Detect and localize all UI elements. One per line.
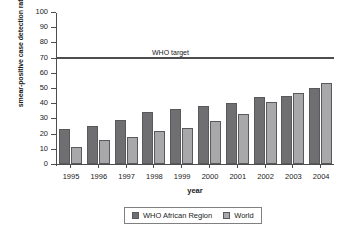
bar-1997-world — [127, 137, 138, 164]
bar-2002-world — [266, 102, 277, 164]
y-tick-50: 50 — [51, 88, 56, 89]
bar-group-2004: 2004 — [309, 12, 337, 164]
bar-group-1998: 1998 — [142, 12, 170, 164]
bar-2004-who-african-region — [309, 88, 320, 164]
legend-item-world: World — [223, 211, 253, 220]
y-tick-mark — [51, 27, 56, 28]
bar-group-1995: 1995 — [59, 12, 87, 164]
x-tick-mark — [70, 164, 71, 168]
bar-1996-world — [99, 140, 110, 164]
y-tick-mark — [51, 88, 56, 89]
y-tick-10: 10 — [51, 149, 56, 150]
chart-figure: smear-positive case detection rate 01020… — [0, 0, 342, 236]
y-tick-label: 20 — [40, 129, 48, 138]
bar-1996-who-african-region — [87, 126, 98, 164]
x-tick-mark — [292, 164, 293, 168]
y-tick-100: 100 — [51, 12, 56, 13]
y-tick-label: 60 — [40, 68, 48, 77]
x-tick-mark — [265, 164, 266, 168]
y-tick-label: 100 — [35, 7, 48, 16]
y-tick-label: 10 — [40, 144, 48, 153]
bar-1998-world — [154, 131, 165, 164]
x-tick-mark — [98, 164, 99, 168]
y-tick-label: 80 — [40, 37, 48, 46]
y-tick-mark — [51, 118, 56, 119]
bar-group-1999: 1999 — [170, 12, 198, 164]
bar-group-1996: 1996 — [87, 12, 115, 164]
x-tick-mark — [320, 164, 321, 168]
y-tick-mark — [51, 12, 56, 13]
bar-2001-world — [238, 114, 249, 164]
y-tick-mark — [51, 164, 56, 165]
y-tick-mark — [51, 134, 56, 135]
y-tick-60: 60 — [51, 73, 56, 74]
bar-2004-world — [321, 83, 332, 164]
y-tick-label: 70 — [40, 53, 48, 62]
y-tick-mark — [51, 42, 56, 43]
y-tick-0: 0 — [51, 164, 56, 165]
x-tick-mark — [126, 164, 127, 168]
bar-1997-who-african-region — [115, 120, 126, 164]
bar-1995-world — [71, 147, 82, 164]
bar-1998-who-african-region — [142, 112, 153, 164]
bar-group-2003: 2003 — [281, 12, 309, 164]
bar-2000-who-african-region — [198, 106, 209, 164]
y-tick-label: 30 — [40, 113, 48, 122]
x-tick-mark — [209, 164, 210, 168]
legend-label-world: World — [234, 211, 253, 220]
x-axis-label: year — [56, 186, 334, 195]
y-tick-mark — [51, 103, 56, 104]
bar-2002-who-african-region — [254, 97, 265, 164]
bar-group-2001: 2001 — [226, 12, 254, 164]
y-tick-label: 90 — [40, 22, 48, 31]
y-tick-20: 20 — [51, 134, 56, 135]
x-tick-mark — [237, 164, 238, 168]
legend-swatch-icon-who-african-region — [132, 212, 139, 219]
y-tick-label: 40 — [40, 98, 48, 107]
y-tick-30: 30 — [51, 118, 56, 119]
x-tick-mark — [181, 164, 182, 168]
bar-group-1997: 1997 — [115, 12, 143, 164]
x-tick-mark — [153, 164, 154, 168]
bar-1999-world — [182, 128, 193, 164]
bar-2003-who-african-region — [281, 96, 292, 164]
y-tick-80: 80 — [51, 42, 56, 43]
bar-group-2002: 2002 — [254, 12, 282, 164]
y-tick-label: 50 — [40, 83, 48, 92]
y-tick-90: 90 — [51, 27, 56, 28]
y-axis-line — [56, 13, 57, 166]
chart-legend: WHO African Region World — [124, 207, 262, 224]
bar-1999-who-african-region — [170, 109, 181, 164]
legend-label-who-african-region: WHO African Region — [143, 211, 212, 220]
y-tick-mark — [51, 73, 56, 74]
y-tick-label: 0 — [44, 159, 48, 168]
bar-group-2000: 2000 — [198, 12, 226, 164]
x-tick-label-2004: 2004 — [305, 172, 337, 181]
legend-item-who-african-region: WHO African Region — [132, 211, 212, 220]
bar-2000-world — [210, 121, 221, 164]
bar-2003-world — [293, 93, 304, 164]
y-axis-label: smear-positive case detection rate — [17, 0, 24, 132]
y-tick-mark — [51, 149, 56, 150]
bar-2001-who-african-region — [226, 103, 237, 164]
plot-area: 0102030405060708090100 WHO target 199519… — [56, 13, 334, 165]
bar-1995-who-african-region — [59, 129, 70, 164]
legend-swatch-icon-world — [223, 212, 230, 219]
y-tick-40: 40 — [51, 103, 56, 104]
